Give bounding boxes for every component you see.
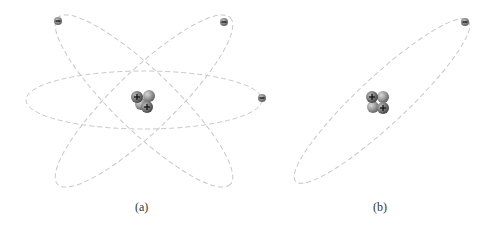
- caption-b: (b): [373, 200, 387, 215]
- electron: [220, 18, 228, 26]
- electron: [461, 18, 469, 26]
- neutron: [143, 90, 155, 102]
- neutron: [377, 91, 389, 103]
- nucleus-a: [131, 90, 155, 113]
- electron: [258, 94, 266, 102]
- caption-a: (a): [135, 200, 148, 215]
- panel-b: [279, 3, 484, 199]
- atom-diagram: [0, 0, 486, 233]
- panel-a: [26, 0, 266, 206]
- nucleus-b: [366, 91, 389, 114]
- electron: [54, 17, 62, 25]
